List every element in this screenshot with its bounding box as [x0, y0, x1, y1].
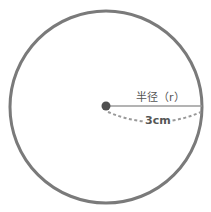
length-label: 3cm — [145, 114, 171, 127]
circle-diagram: 半径（r） 3cm — [0, 0, 211, 212]
circle-figure: 半径（r） 3cm — [0, 0, 211, 212]
radius-label: 半径（r） — [136, 90, 185, 104]
center-point — [102, 102, 111, 111]
